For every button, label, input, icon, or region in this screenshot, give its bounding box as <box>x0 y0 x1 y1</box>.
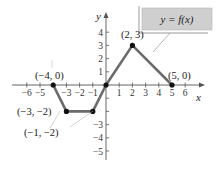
x-tick-label: 5 <box>170 88 175 98</box>
annotation-5-0: (5, 0) <box>168 70 191 82</box>
data-point-dot <box>130 43 135 48</box>
label-leader-line <box>153 33 170 52</box>
y-tick-label: 1 <box>98 67 103 77</box>
y-axis-arrow-icon <box>104 12 109 18</box>
function-label-box: y = f(x) <box>139 6 212 52</box>
data-points <box>51 43 175 114</box>
function-line <box>53 45 172 111</box>
x-tick-label: −6 <box>22 88 32 98</box>
x-axis-label: x <box>195 91 201 103</box>
x-axis-arrow-icon <box>199 83 205 88</box>
x-tick-label: 4 <box>156 88 161 98</box>
annotation-2-3: (2, 3) <box>121 29 144 41</box>
y-tick-label: 2 <box>98 54 103 64</box>
x-tick-label: 3 <box>143 88 148 98</box>
x-tick-label: −2 <box>75 88 85 98</box>
y-tick-label: −5 <box>93 147 103 157</box>
data-point-dot <box>169 82 174 87</box>
data-point-dot <box>64 109 69 114</box>
function-graph: y = f(x) x y −6−5−3−2−11234564321−3−4−5 … <box>0 0 218 173</box>
y-tick-label: −4 <box>93 133 103 143</box>
y-tick-label: 3 <box>98 41 103 51</box>
x-tick-label: −5 <box>35 88 45 98</box>
function-label: y = f(x) <box>159 13 193 26</box>
x-tick-label: −1 <box>88 88 98 98</box>
annotation-minus4-0: (−4, 0) <box>35 70 64 82</box>
x-tick-label: 1 <box>117 88 122 98</box>
leader-minus1-minus2 <box>70 111 93 127</box>
x-tick-label: 2 <box>130 88 135 98</box>
y-tick-label: −3 <box>93 120 103 130</box>
data-point-dot <box>103 82 108 87</box>
series-f <box>53 45 172 111</box>
x-tick-label: 6 <box>183 88 188 98</box>
x-tick-label: −3 <box>61 88 71 98</box>
annotation-minus1-minus2: (−1, −2) <box>24 127 59 139</box>
y-tick-label: 4 <box>98 28 103 38</box>
data-point-dot <box>51 82 56 87</box>
annotation-minus3-minus2: (−3, −2) <box>17 106 52 118</box>
y-axis-label: y <box>95 10 101 22</box>
